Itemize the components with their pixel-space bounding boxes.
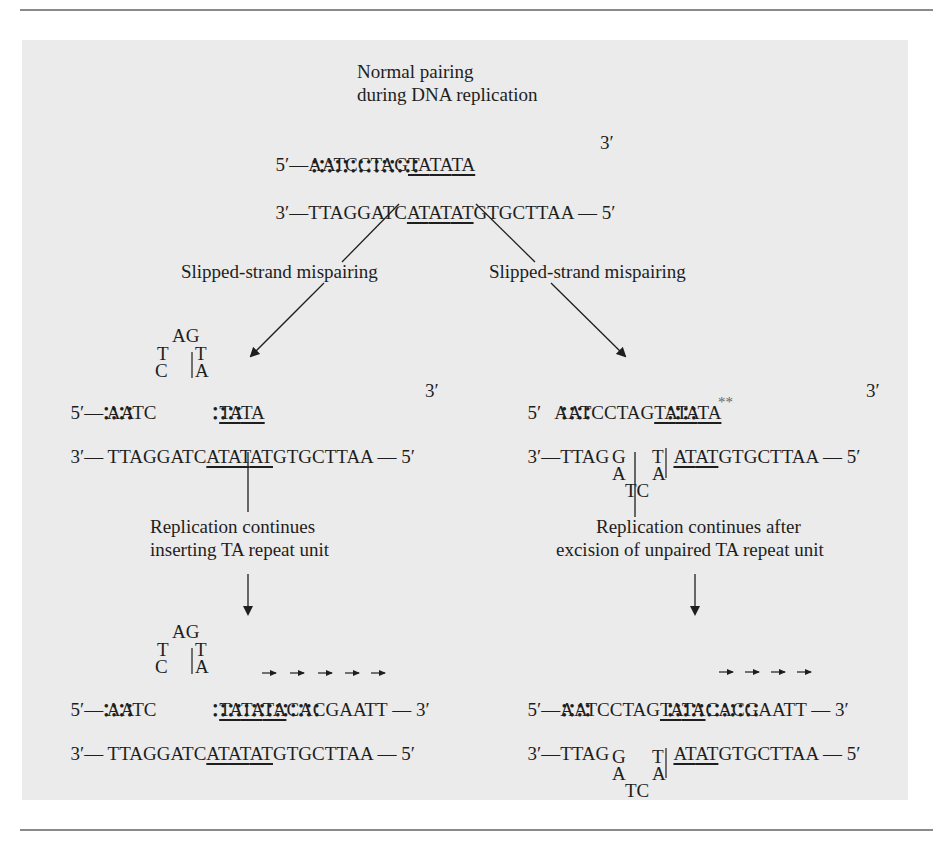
right-mid-loop-left-lower: A	[612, 463, 626, 485]
normal-base-pairs: • • • • • • • • • • • • • • • • • • • • …	[312, 157, 418, 175]
left-mid-loop-right-lower: A	[195, 360, 209, 382]
right-final-bottom-strand-left: 3′—TTAG	[518, 721, 609, 765]
right-final-loop-left-lower: A	[612, 763, 626, 785]
right-final-pairs-b: • • • • • • • • • • • • • • • • • • • • …	[668, 701, 758, 719]
left-mid-top-3prime: 3′	[425, 380, 439, 402]
right-step-label-2: excision of unpaired TA repeat unit	[556, 538, 824, 561]
left-mid-pairs-b: • • • • • • • •	[213, 404, 241, 422]
right-final-bottom-strand-right: ATATGTGCTTAA — 5′	[665, 721, 860, 765]
branch-label-right: Slipped-strand mispairing	[489, 260, 686, 283]
left-mid-loop-left-lower: C	[155, 360, 168, 382]
right-mid-bottom-strand-left: 3′—TTAG	[518, 424, 609, 468]
right-mid-loop-right-lower: A	[652, 463, 666, 485]
left-final-pairs-b: • • • • • • • • • • • • • • • • • • • • …	[213, 701, 319, 719]
normal-bottom-strand: 3′—TTAGGATCATATATGTGCTTAA — 5′	[266, 180, 616, 224]
normal-top-3prime: 3′	[600, 132, 614, 154]
right-mid-pairs-b: • • • • • • • •	[668, 404, 696, 422]
right-final-loop-bottom: TC	[625, 780, 649, 802]
left-final-loop-right-lower: A	[195, 656, 209, 678]
left-step-label-1: Replication continues	[150, 515, 315, 538]
left-final-loop-left-lower: C	[155, 656, 168, 678]
right-step-label-1: Replication continues after	[596, 515, 801, 538]
right-mid-top-3prime: 3′	[866, 380, 880, 402]
left-mid-bottom-strand: 3′— TTAGGATCATATATGTGCTTAA — 5′	[61, 424, 415, 468]
left-step-label-2: inserting TA repeat unit	[150, 538, 329, 561]
left-final-pairs-a: • • • • • • • •	[104, 701, 132, 719]
right-mid-bottom-strand-right: ATATGTGCTTAA — 5′	[665, 424, 860, 468]
title-line-1: Normal pairing	[357, 60, 474, 83]
right-mid-loop-bottom: TC	[625, 480, 649, 502]
right-mid-pairs-a: • • • • • • • •	[562, 404, 590, 422]
unpaired-marker: **	[718, 394, 733, 411]
right-final-loop-right-lower: A	[652, 763, 666, 785]
left-final-bottom-strand: 3′— TTAGGATCATATATGTGCTTAA — 5′	[61, 721, 415, 765]
branch-label-left: Slipped-strand mispairing	[181, 260, 378, 283]
right-final-pairs-a: • • • • • • • •	[562, 701, 590, 719]
title-line-2: during DNA replication	[357, 83, 537, 106]
left-mid-pairs-a: • • • • • • • •	[104, 404, 132, 422]
